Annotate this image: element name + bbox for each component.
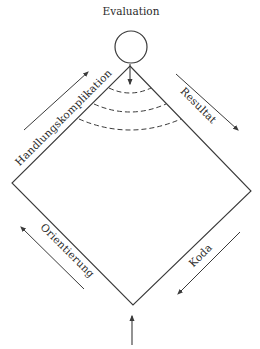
result-label: Resultat (178, 85, 219, 126)
coda-label: Koda (186, 241, 214, 269)
evaluation-node-circle (115, 31, 147, 63)
narrative-structure-diagram: Evaluation Handlungskomplikation Resulta… (0, 0, 260, 349)
diagram-title: Evaluation (103, 5, 160, 17)
narrative-diamond (12, 66, 251, 305)
complication-label: Handlungskomplikation (12, 66, 113, 167)
orientation-label: Orientierung (38, 221, 97, 280)
